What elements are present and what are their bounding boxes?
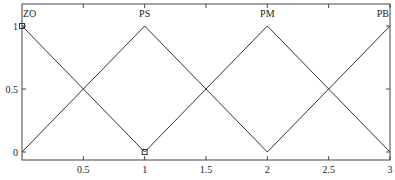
x-tick-label: 3 <box>388 164 393 175</box>
x-tick-label: 2 <box>265 164 270 175</box>
mf-label-ps: PS <box>139 8 150 19</box>
x-tick-label: 1.5 <box>200 164 213 175</box>
mf-label-pm: PM <box>260 8 275 19</box>
y-tick-label: 1 <box>13 21 18 32</box>
x-tick-label: 0.5 <box>77 164 90 175</box>
mf-label-pb: PB <box>377 8 390 19</box>
series-pm-line <box>145 26 390 152</box>
ticks-group: 0.511.522.5300.51 <box>6 4 393 175</box>
series-group <box>20 24 391 155</box>
y-tick-label: 0 <box>13 147 18 158</box>
membership-function-chart: 0.511.522.5300.51 ZOPSPMPB <box>0 0 395 180</box>
x-tick-label: 2.5 <box>322 164 335 175</box>
series-ps-line <box>22 26 267 152</box>
x-tick-label: 1 <box>142 164 147 175</box>
labels-group: ZOPSPMPB <box>23 8 389 19</box>
y-tick-label: 0.5 <box>6 84 19 95</box>
mf-label-zo: ZO <box>23 8 36 19</box>
